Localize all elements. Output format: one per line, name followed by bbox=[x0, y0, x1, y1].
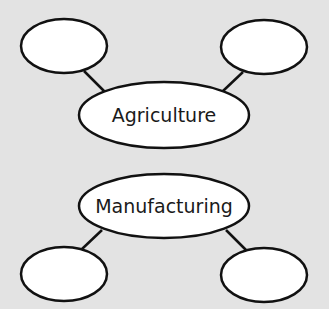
empty-bubble-manufacturing-left[interactable] bbox=[21, 247, 107, 301]
connector-manufacturing-left bbox=[82, 230, 102, 249]
connector-agriculture-left bbox=[84, 71, 105, 92]
connector-agriculture-right bbox=[223, 72, 243, 91]
diagram-svg bbox=[0, 0, 329, 309]
manufacturing-label: Manufacturing bbox=[95, 195, 233, 217]
empty-bubble-agriculture-left[interactable] bbox=[21, 19, 107, 73]
connector-manufacturing-right bbox=[226, 230, 246, 250]
diagram-canvas: Agriculture Manufacturing bbox=[0, 0, 329, 309]
empty-bubble-agriculture-right[interactable] bbox=[221, 20, 307, 74]
agriculture-label: Agriculture bbox=[112, 104, 217, 126]
empty-bubble-manufacturing-right[interactable] bbox=[221, 248, 307, 302]
